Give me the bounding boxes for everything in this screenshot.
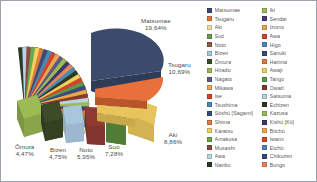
- slice-dark-olive: [41, 101, 63, 141]
- legend-item[interactable]: Iwami: [262, 135, 315, 144]
- legend-item[interactable]: Kazusa: [262, 109, 315, 118]
- legend-item[interactable]: Kishū [Kii]: [262, 118, 315, 127]
- legend-item[interactable]: Chikuzen: [262, 152, 315, 161]
- legend-swatch-icon: [207, 59, 212, 64]
- legend-item[interactable]: Echizen: [262, 101, 315, 110]
- legend-swatch-icon: [207, 16, 212, 21]
- legend-item-label: Awa: [215, 153, 226, 159]
- legend-item-label: Shima: [215, 119, 231, 125]
- pie-label-aki: Aki 8,86%: [164, 131, 182, 146]
- legend-item-label: Tsugaru: [215, 16, 235, 22]
- legend-swatch-icon: [262, 16, 267, 21]
- legend-swatch-icon: [207, 42, 212, 47]
- legend-swatch-icon: [207, 8, 212, 13]
- legend-item[interactable]: Ōmura: [207, 58, 260, 67]
- legend-swatch-icon: [207, 68, 212, 73]
- legend-item[interactable]: Awa: [262, 32, 315, 41]
- legend-swatch-icon: [262, 145, 267, 150]
- legend-item-label: Tango: [270, 76, 285, 82]
- legend-swatch-icon: [207, 154, 212, 159]
- legend-item[interactable]: Satsuma: [262, 92, 315, 101]
- legend-item[interactable]: Iki: [262, 6, 315, 15]
- legend-item[interactable]: Owari: [262, 83, 315, 92]
- pie-label-suo-value: 7,28%: [105, 150, 123, 157]
- legend-item-label: Izumo: [270, 24, 285, 30]
- pie-label-aki-name: Aki: [164, 131, 182, 138]
- legend-item[interactable]: Suō: [207, 32, 260, 41]
- legend-item[interactable]: Musashi: [207, 144, 260, 153]
- legend-item[interactable]: Nagato: [207, 75, 260, 84]
- legend-swatch-icon: [262, 137, 267, 142]
- legend-swatch-icon: [207, 102, 212, 107]
- legend-item[interactable]: Bizen: [207, 49, 260, 58]
- legend-item-label: Sendai: [270, 16, 287, 22]
- pie-label-noto-value: 5,95%: [77, 153, 95, 160]
- pie-label-omura-name: Ōmura: [15, 143, 34, 150]
- legend-item[interactable]: Awa: [207, 152, 260, 161]
- legend-item-label: Iwami: [270, 136, 284, 142]
- legend-swatch-icon: [207, 120, 212, 125]
- legend-item-label: Aki: [215, 24, 223, 30]
- slice-bizen: [63, 105, 84, 143]
- pie-label-matsumae-name: Matsumae: [141, 17, 171, 24]
- legend-item[interactable]: Izumo: [262, 23, 315, 32]
- pie-label-bizen: Bizen 4,75%: [49, 146, 67, 161]
- legend-item[interactable]: Sendai: [262, 15, 315, 24]
- legend-swatch-icon: [207, 128, 212, 133]
- legend-swatch-icon: [207, 94, 212, 99]
- legend-item[interactable]: Tsushima: [207, 101, 260, 110]
- legend-item[interactable]: Etchū: [262, 144, 315, 153]
- legend-item[interactable]: Noto: [207, 40, 260, 49]
- legend-swatch-icon: [207, 85, 212, 90]
- legend-item[interactable]: Sanuki: [262, 49, 315, 58]
- legend-swatch-icon: [207, 137, 212, 142]
- legend-item[interactable]: Sōshū [Sagami]: [207, 109, 260, 118]
- legend-item-label: Tsushima: [215, 102, 238, 108]
- legend-item-label: Iki: [270, 7, 276, 13]
- legend-swatch-icon: [262, 25, 267, 30]
- legend-item[interactable]: Ise: [207, 92, 260, 101]
- legend-item-label: Matsumae: [215, 7, 241, 13]
- legend-swatch-icon: [207, 25, 212, 30]
- pie-label-suo-name: Suō: [105, 143, 123, 150]
- legend-item[interactable]: Higo: [262, 40, 315, 49]
- legend-item-label: Owari: [270, 85, 284, 91]
- legend-item[interactable]: Nanbu: [207, 161, 260, 170]
- legend-item[interactable]: Tsugaru: [207, 15, 260, 24]
- legend-item-label: Awaji: [270, 67, 283, 73]
- legend-item-label: Mikawa: [215, 85, 234, 91]
- legend-item[interactable]: Mikawa: [207, 83, 260, 92]
- legend-item[interactable]: Harima: [262, 58, 315, 67]
- legend-item-label: Ise: [215, 93, 222, 99]
- legend-item[interactable]: Amakusa: [207, 135, 260, 144]
- legend-swatch-icon: [262, 102, 267, 107]
- legend-item[interactable]: Bungo: [262, 161, 315, 170]
- legend-item-label: Nanbu: [215, 162, 231, 168]
- legend-item[interactable]: Aki: [207, 23, 260, 32]
- pie-label-matsumae: Matsumae 19,64%: [141, 17, 171, 32]
- legend-item-label: Harima: [270, 59, 288, 65]
- legend-item-label: Bitchū: [270, 128, 285, 134]
- legend-item-label: Karatsu: [215, 128, 234, 134]
- legend-swatch-icon: [207, 34, 212, 39]
- legend-item[interactable]: Hirado: [207, 66, 260, 75]
- legend-item[interactable]: Bitchū: [262, 126, 315, 135]
- legend-item[interactable]: Matsumae: [207, 6, 260, 15]
- legend-swatch-icon: [262, 162, 267, 167]
- chart-legend: MatsumaeTsugaruAkiSuōNotoBizenŌmuraHirad…: [207, 6, 315, 178]
- legend-item[interactable]: Tango: [262, 75, 315, 84]
- legend-swatch-icon: [207, 111, 212, 116]
- legend-swatch-icon: [207, 162, 212, 167]
- legend-swatch-icon: [207, 145, 212, 150]
- legend-item[interactable]: Karatsu: [207, 126, 260, 135]
- legend-item-label: Kazusa: [270, 110, 288, 116]
- legend-item[interactable]: Awaji: [262, 66, 315, 75]
- legend-item-label: Noto: [215, 42, 227, 48]
- legend-column-right: IkiSendaiIzumoAwaHigoSanukiHarimaAwajiTa…: [262, 6, 315, 178]
- legend-swatch-icon: [262, 94, 267, 99]
- legend-item[interactable]: Shima: [207, 118, 260, 127]
- legend-swatch-icon: [262, 154, 267, 159]
- legend-swatch-icon: [207, 51, 212, 56]
- legend-column-left: MatsumaeTsugaruAkiSuōNotoBizenŌmuraHirad…: [207, 6, 260, 178]
- legend-swatch-icon: [207, 77, 212, 82]
